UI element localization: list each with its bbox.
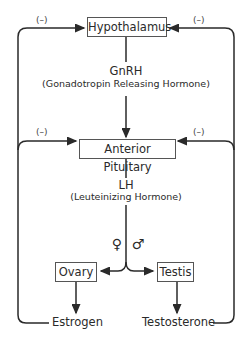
testosterone-label: Testosterone [142, 315, 212, 329]
negative-feedback-hypothalamus-left: (–) [36, 15, 48, 25]
negative-feedback-pituitary-right: (–) [193, 127, 205, 137]
gnrh-label: GnRH [76, 64, 176, 78]
lh-label: LH [76, 178, 176, 192]
male-symbol: ♂ [131, 236, 145, 252]
hypothalamus-box: Hypothalamus [87, 17, 167, 37]
gnrh-full-name: (Gonadotropin Releasing Hormone) [26, 78, 226, 89]
lh-full-name: (Leuteinizing Hormone) [46, 191, 206, 202]
ovary-label: Ovary [59, 265, 93, 279]
negative-feedback-pituitary-left: (–) [36, 127, 48, 137]
testis-label: Testis [160, 265, 192, 279]
testis-box: Testis [157, 262, 194, 282]
negative-feedback-hypothalamus-right: (–) [193, 15, 205, 25]
estrogen-label: Estrogen [50, 315, 105, 329]
hypothalamus-label: Hypothalamus [88, 20, 171, 34]
female-symbol: ♀ [110, 236, 124, 252]
anterior-pituitary-box: Anterior Pituitary [79, 139, 176, 159]
ovary-box: Ovary [55, 262, 97, 282]
anterior-pituitary-label: Anterior Pituitary [104, 142, 152, 174]
